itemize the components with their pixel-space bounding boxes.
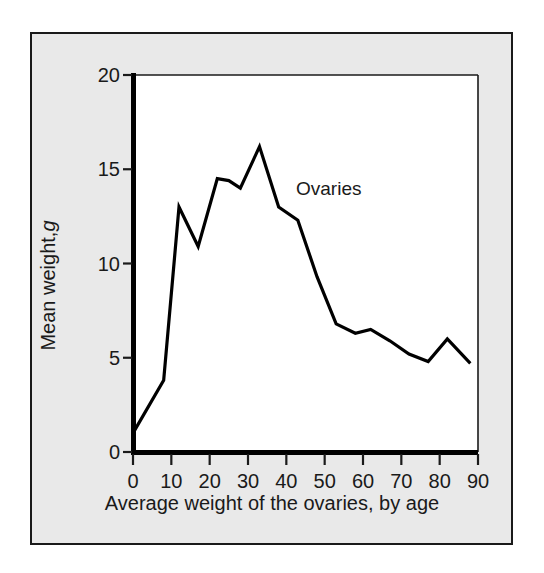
series-annotation-ovaries: Ovaries (296, 178, 361, 200)
x-axis-tick-label: 10 (160, 470, 182, 493)
x-axis-tick-label: 80 (429, 470, 451, 493)
y-axis-tick-label: 20 (78, 64, 120, 87)
x-axis-tick-label: 0 (127, 470, 138, 493)
y-axis-tick-label: 10 (78, 252, 120, 275)
x-axis-tick-label: 60 (352, 470, 374, 493)
y-axis-tick-label: 15 (78, 158, 120, 181)
figure-container: 05101520 0102030405060708090 Mean weight… (0, 0, 544, 573)
x-axis-tick-label: 90 (467, 470, 489, 493)
y-axis-title: Mean weight,g (37, 186, 60, 386)
x-axis-tick-label: 30 (237, 470, 259, 493)
y-axis-title-text: Mean weight, (37, 232, 59, 351)
y-axis-tick-label: 0 (78, 441, 120, 464)
x-axis-tick-label: 20 (199, 470, 221, 493)
y-axis-title-unit: g (37, 220, 59, 231)
x-axis-tick-label: 70 (390, 470, 412, 493)
x-axis-tick-label: 40 (275, 470, 297, 493)
figure-frame (30, 32, 513, 545)
y-axis-tick-label: 5 (78, 346, 120, 369)
x-axis-tick-label: 50 (314, 470, 336, 493)
x-axis-title: Average weight of the ovaries, by age (60, 492, 484, 515)
